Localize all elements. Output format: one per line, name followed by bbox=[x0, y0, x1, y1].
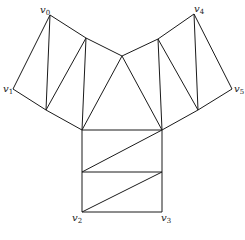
label-v0: v0 bbox=[40, 4, 50, 17]
label-v1: v1 bbox=[3, 83, 13, 96]
diag-left-1 bbox=[46, 15, 50, 110]
label-v3: v3 bbox=[161, 212, 171, 225]
diag-left-2 bbox=[46, 38, 86, 110]
edge-left-inner bbox=[82, 56, 122, 130]
edge-right-inner bbox=[122, 56, 162, 130]
diag-left-3 bbox=[82, 38, 86, 130]
edge-right-top-1 bbox=[158, 14, 194, 39]
bottom-square bbox=[82, 130, 162, 212]
diag-bottom-2 bbox=[82, 172, 162, 212]
edge-right-bottom-2 bbox=[162, 110, 198, 130]
diag-right-3 bbox=[158, 39, 162, 130]
edge-right-top-2 bbox=[122, 39, 158, 56]
label-v4: v4 bbox=[194, 3, 205, 16]
edge-left-top-2 bbox=[86, 38, 122, 56]
edge-v4-v5 bbox=[194, 14, 232, 89]
edge-left-bottom-1 bbox=[13, 89, 46, 110]
label-v5: v5 bbox=[234, 83, 244, 96]
diag-right-1 bbox=[194, 14, 198, 110]
label-v2: v2 bbox=[72, 212, 82, 225]
edge-left-bottom-2 bbox=[46, 110, 82, 130]
edge-v0-v1 bbox=[13, 15, 50, 89]
triangulated-polygon-diagram: v0 v1 v2 v3 v4 v5 bbox=[0, 0, 245, 240]
edge-left-top-1 bbox=[50, 15, 86, 38]
left-square bbox=[13, 15, 122, 130]
edge-right-bottom-1 bbox=[198, 89, 232, 110]
right-square bbox=[122, 14, 232, 130]
diag-right-2 bbox=[158, 39, 198, 110]
diag-bottom-1 bbox=[82, 130, 162, 172]
